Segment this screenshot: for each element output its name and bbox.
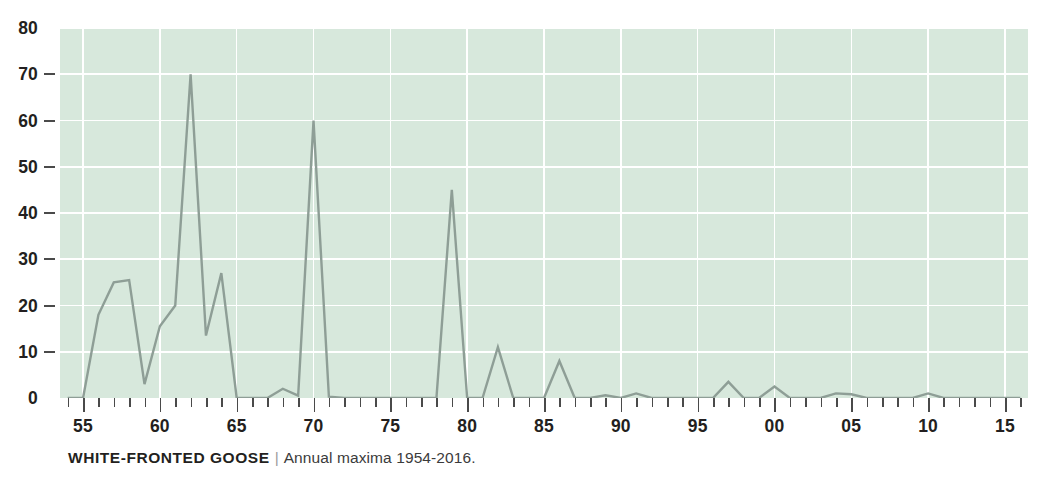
x-tick-major	[1005, 398, 1007, 412]
y-tick-mark	[44, 73, 55, 75]
caption-species: WHITE-FRONTED GOOSE	[68, 449, 270, 466]
x-tick-label: 75	[380, 416, 400, 437]
x-tick-major	[928, 398, 930, 412]
y-axis: 01020304050607080	[0, 0, 60, 410]
series-path	[68, 74, 1021, 398]
x-tick-minor	[990, 398, 992, 407]
data-series-line	[60, 28, 1028, 398]
x-tick-minor	[652, 398, 654, 407]
x-tick-minor	[590, 398, 592, 407]
x-tick-minor	[821, 398, 823, 407]
x-tick-minor	[221, 398, 223, 407]
x-tick-minor	[68, 398, 70, 407]
y-tick-label: 0	[28, 388, 38, 409]
x-tick-minor	[344, 398, 346, 407]
x-tick-major	[467, 398, 469, 412]
x-tick-minor	[145, 398, 147, 407]
x-tick-minor	[605, 398, 607, 407]
x-tick-minor	[805, 398, 807, 407]
y-tick-mark	[44, 258, 55, 260]
y-tick-label: 30	[18, 249, 38, 270]
x-tick-minor	[682, 398, 684, 407]
x-tick-minor	[790, 398, 792, 407]
x-tick-minor	[483, 398, 485, 407]
x-tick-minor	[867, 398, 869, 407]
x-tick-minor	[206, 398, 208, 407]
x-tick-minor	[421, 398, 423, 407]
x-tick-label: 60	[150, 416, 170, 437]
x-tick-minor	[513, 398, 515, 407]
x-tick-minor	[498, 398, 500, 407]
x-tick-minor	[406, 398, 408, 407]
x-tick-minor	[267, 398, 269, 407]
x-tick-minor	[298, 398, 300, 407]
x-tick-major	[698, 398, 700, 412]
x-tick-minor	[575, 398, 577, 407]
x-tick-label: 65	[227, 416, 247, 437]
x-tick-minor	[191, 398, 193, 407]
x-tick-minor	[175, 398, 177, 407]
caption-separator: |	[270, 449, 284, 466]
x-tick-major	[851, 398, 853, 412]
y-tick-label: 40	[18, 203, 38, 224]
y-tick-label: 20	[18, 295, 38, 316]
x-tick-minor	[744, 398, 746, 407]
x-tick-label: 70	[304, 416, 324, 437]
x-tick-minor	[283, 398, 285, 407]
chart-figure: 01020304050607080 5560657075808590950005…	[0, 0, 1052, 485]
x-tick-label: 55	[73, 416, 93, 437]
y-tick-label: 10	[18, 341, 38, 362]
y-tick-mark	[44, 351, 55, 353]
y-tick-label: 70	[18, 64, 38, 85]
y-tick-mark	[44, 166, 55, 168]
x-tick-major	[160, 398, 162, 412]
x-tick-label: 05	[841, 416, 861, 437]
x-tick-minor	[559, 398, 561, 407]
x-tick-minor	[375, 398, 377, 407]
x-tick-minor	[974, 398, 976, 407]
y-tick-mark	[44, 212, 55, 214]
caption: WHITE-FRONTED GOOSE|Annual maxima 1954-2…	[68, 450, 476, 466]
x-tick-major	[314, 398, 316, 412]
x-tick-minor	[114, 398, 116, 407]
x-tick-label: 10	[918, 416, 938, 437]
y-tick-label: 80	[18, 18, 38, 39]
x-tick-major	[237, 398, 239, 412]
y-tick-mark	[44, 120, 55, 122]
caption-subtitle: Annual maxima 1954-2016.	[284, 449, 476, 466]
x-tick-major	[390, 398, 392, 412]
y-tick-mark	[44, 305, 55, 307]
x-tick-label: 90	[611, 416, 631, 437]
x-tick-label: 15	[995, 416, 1015, 437]
x-tick-major	[544, 398, 546, 412]
x-tick-minor	[1020, 398, 1022, 407]
x-tick-major	[83, 398, 85, 412]
x-tick-minor	[529, 398, 531, 407]
x-tick-minor	[252, 398, 254, 407]
x-tick-minor	[360, 398, 362, 407]
x-tick-minor	[98, 398, 100, 407]
x-tick-label: 85	[534, 416, 554, 437]
x-tick-label: 95	[688, 416, 708, 437]
x-tick-minor	[636, 398, 638, 407]
x-tick-minor	[897, 398, 899, 407]
y-tick-label: 50	[18, 156, 38, 177]
x-tick-minor	[329, 398, 331, 407]
x-tick-minor	[667, 398, 669, 407]
x-tick-minor	[913, 398, 915, 407]
x-tick-minor	[836, 398, 838, 407]
x-tick-minor	[129, 398, 131, 407]
x-tick-label: 00	[765, 416, 785, 437]
x-tick-major	[621, 398, 623, 412]
x-tick-minor	[713, 398, 715, 407]
x-tick-minor	[943, 398, 945, 407]
plot-area	[60, 28, 1028, 398]
x-tick-minor	[882, 398, 884, 407]
x-tick-minor	[436, 398, 438, 407]
x-tick-label: 80	[457, 416, 477, 437]
y-tick-label: 60	[18, 110, 38, 131]
x-axis: 55606570758085909500051015	[60, 398, 1028, 440]
x-tick-minor	[959, 398, 961, 407]
x-tick-minor	[728, 398, 730, 407]
x-tick-minor	[452, 398, 454, 407]
